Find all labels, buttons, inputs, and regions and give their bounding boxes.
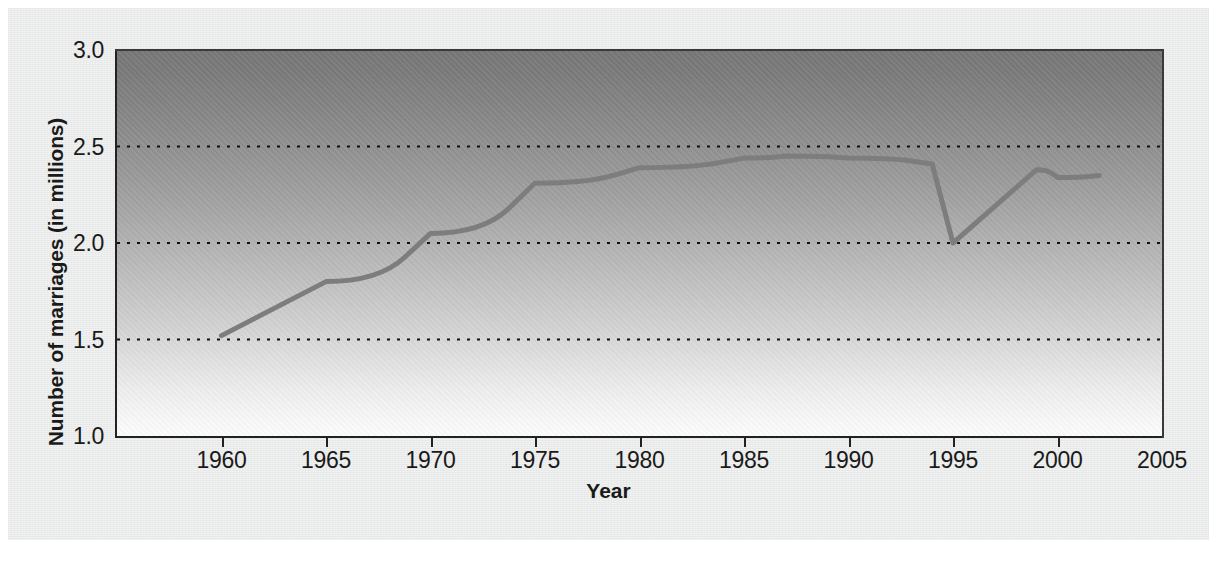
x-tick-label: 1995	[928, 447, 978, 474]
chart-figure: Number of marriages (in millions) 1.01.5…	[0, 0, 1217, 561]
x-tick-mark	[1058, 436, 1060, 447]
x-tick-mark	[326, 436, 328, 447]
x-tick-mark	[222, 436, 224, 447]
x-tick-label: 1990	[824, 447, 874, 474]
x-tick-mark	[953, 436, 955, 447]
x-tick-label: 2000	[1033, 447, 1083, 474]
x-tick-mark	[640, 436, 642, 447]
x-tick-mark	[744, 436, 746, 447]
x-tick-mark	[431, 436, 433, 447]
x-tick-label: 1985	[719, 447, 769, 474]
x-tick-label: 1975	[510, 447, 560, 474]
x-tick-label: 2005	[1137, 447, 1187, 474]
chart-svg	[0, 0, 1217, 561]
x-tick-label: 1980	[615, 447, 665, 474]
x-axis-title: Year	[0, 479, 1217, 503]
x-tick-label: 1960	[197, 447, 247, 474]
x-tick-label: 1965	[301, 447, 351, 474]
x-tick-mark	[535, 436, 537, 447]
data-line-marriages	[222, 156, 1100, 336]
x-tick-label: 1970	[406, 447, 456, 474]
x-tick-mark	[849, 436, 851, 447]
